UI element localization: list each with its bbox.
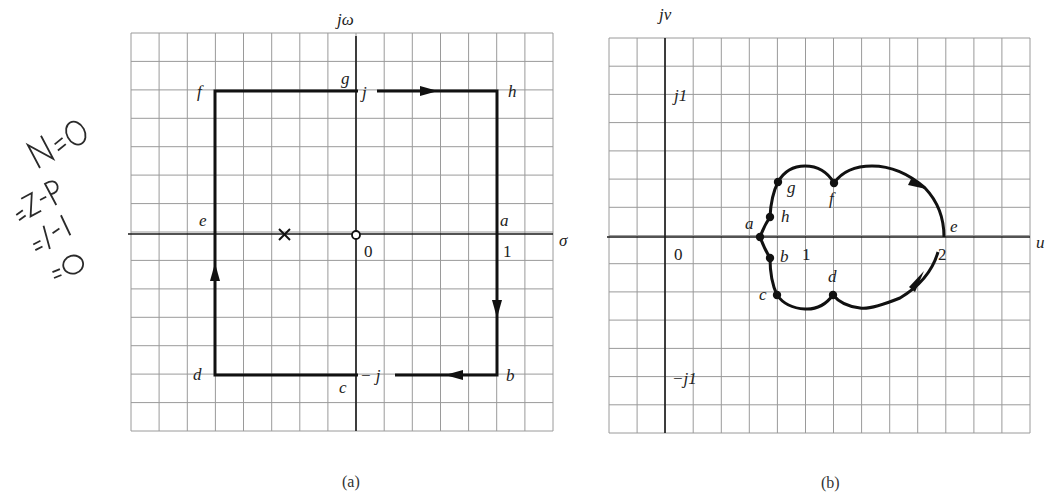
plot-a-tick-1: 1 — [503, 242, 512, 261]
plot-b-point-a: a — [745, 214, 754, 233]
plot-b-point-h: h — [781, 207, 790, 226]
point-f-dot-icon — [830, 179, 838, 187]
plot-b-tick-1: 1 — [802, 245, 811, 264]
plot-b-f-plane: jv u 0 1 2 j1 −j1 a b c d e f g h (b) — [607, 5, 1045, 492]
plot-a-caption: (a) — [342, 473, 360, 491]
plot-b-tick-neg-j1: −j1 — [672, 369, 697, 388]
point-d-dot-icon — [829, 291, 837, 299]
plot-b-x-axis-label: u — [1036, 233, 1045, 252]
plot-a-point-f: f — [197, 82, 204, 101]
annotation-equals-zero — [50, 253, 86, 279]
point-b-dot-icon — [766, 254, 774, 262]
arrow-left-icon — [445, 370, 463, 380]
figure-canvas: jω σ 0 1 j − j a b c d e f g h (a) — [0, 0, 1064, 500]
plot-a-point-g: g — [341, 69, 350, 88]
arrow-down-icon — [492, 300, 502, 318]
annotation-one-minus-one — [27, 215, 72, 254]
plot-a-point-a: a — [500, 211, 509, 230]
plot-b-point-b: b — [780, 247, 789, 266]
arrow-up-icon — [210, 263, 220, 281]
point-c-dot-icon — [773, 291, 781, 299]
plot-a-point-e: e — [199, 211, 207, 230]
zero-marker-icon — [352, 231, 360, 239]
plot-b-y-axis-label: jv — [657, 5, 672, 24]
plot-a-point-d: d — [193, 365, 202, 384]
point-h-dot-icon — [766, 213, 774, 221]
plot-a-point-b: b — [506, 366, 515, 385]
plot-b-point-d: d — [828, 267, 837, 286]
plot-a-point-c: c — [339, 378, 347, 397]
plot-b-caption: (b) — [821, 474, 840, 492]
plot-a-point-h: h — [508, 82, 517, 101]
plot-a-bottom-j-label: − j — [360, 366, 381, 385]
plot-b-point-e: e — [950, 217, 958, 236]
plot-b-point-g: g — [787, 178, 796, 197]
plot-a-s-plane: jω σ 0 1 j − j a b c d e f g h (a) — [128, 10, 568, 491]
handwritten-annotation — [10, 117, 91, 279]
annotation-n-equals-0 — [27, 117, 90, 168]
plot-b-tick-2: 2 — [938, 245, 947, 264]
plot-b-origin-label: 0 — [674, 245, 683, 264]
plot-a-x-axis-label: σ — [559, 231, 568, 250]
plot-b-point-c: c — [759, 285, 767, 304]
point-g-dot-icon — [774, 178, 782, 186]
plot-a-y-axis-label: jω — [335, 10, 354, 29]
plot-b-point-f: f — [829, 189, 836, 208]
plot-a-top-j-label: j — [360, 83, 367, 102]
arrow-right-icon — [420, 86, 438, 96]
annotation-z-minus-p — [10, 179, 66, 224]
plot-b-points — [756, 178, 838, 299]
plot-a-origin-label: 0 — [364, 242, 373, 261]
plot-b-tick-j1: j1 — [672, 86, 687, 105]
point-a-dot-icon — [756, 233, 764, 241]
